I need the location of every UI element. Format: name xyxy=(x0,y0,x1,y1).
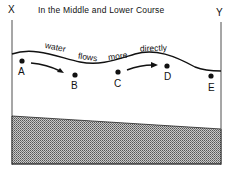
flow-arrow-2 xyxy=(127,65,153,70)
end-label-y: Y xyxy=(216,8,223,18)
point-a-marker xyxy=(19,58,24,63)
point-c-marker xyxy=(115,69,120,74)
flow-word-directly: directly xyxy=(140,43,167,54)
point-e-label: E xyxy=(208,83,215,93)
arrowhead-icon xyxy=(151,62,158,68)
bedrock-layer xyxy=(12,116,221,164)
point-e-marker xyxy=(208,73,213,78)
point-d-label: D xyxy=(164,72,171,82)
point-b-label: B xyxy=(71,81,78,91)
point-a-label: A xyxy=(18,67,25,77)
diagram-title: In the Middle and Lower Course xyxy=(38,5,165,15)
flow-arrow-1 xyxy=(31,63,60,71)
point-c-label: C xyxy=(114,79,121,89)
point-b-marker xyxy=(72,72,77,77)
point-d-marker xyxy=(164,63,169,68)
end-label-x: X xyxy=(8,5,15,15)
